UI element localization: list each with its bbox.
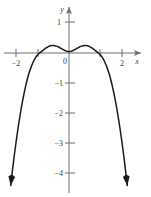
graph-figure: −2 2 0 1 −1 −2 −3 −4 x y: [0, 0, 151, 197]
curve-left-arrowhead: [8, 174, 15, 185]
y-tick-marks: [65, 22, 75, 173]
y-axis-group: [66, 7, 72, 193]
x-tick-label--2: −2: [12, 59, 21, 68]
y-tick-label--4: −4: [54, 169, 63, 178]
y-tick-label--1: −1: [54, 79, 63, 88]
y-tick-label--3: −3: [54, 139, 63, 148]
x-tick-label-2: 2: [120, 59, 124, 68]
plot-canvas: −2 2 0 1 −1 −2 −3 −4 x y: [0, 0, 151, 197]
y-axis-label: y: [59, 5, 64, 14]
x-axis-label: x: [134, 57, 139, 66]
y-tick-label-1: 1: [57, 18, 61, 27]
y-tick-label--2: −2: [54, 109, 63, 118]
origin-label: 0: [63, 57, 67, 66]
curve-right-arrowhead: [123, 174, 130, 185]
